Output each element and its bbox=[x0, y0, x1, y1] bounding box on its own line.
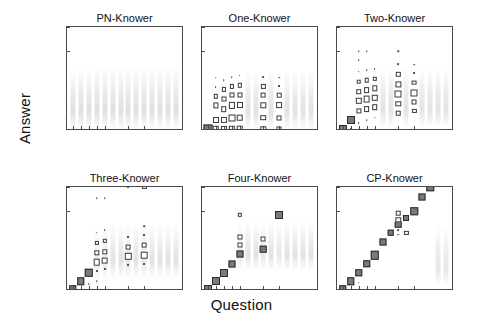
density-column bbox=[253, 70, 258, 129]
data-point-marker bbox=[413, 72, 415, 74]
x-tick-mark bbox=[359, 126, 360, 129]
x-tick-mark bbox=[144, 126, 145, 129]
panel-two-knower: Two-Knower1102012345810 bbox=[336, 26, 453, 130]
plot-area bbox=[202, 27, 317, 129]
density-column bbox=[142, 66, 147, 129]
data-point-marker bbox=[279, 77, 281, 79]
panel-pn-knower: PN-Knower1102012345810 bbox=[66, 26, 183, 130]
density-column bbox=[134, 66, 139, 129]
density-column bbox=[150, 66, 155, 129]
data-point-marker bbox=[387, 230, 394, 237]
y-tick-mark bbox=[67, 187, 70, 188]
y-tick-mark bbox=[202, 211, 205, 212]
data-point-marker bbox=[363, 260, 371, 268]
x-tick-mark bbox=[367, 126, 368, 129]
plot-frame: 1102012345810 bbox=[66, 26, 183, 130]
panel-title: Four-Knower bbox=[201, 172, 318, 184]
data-point-marker bbox=[427, 186, 435, 191]
y-tick-mark bbox=[337, 51, 340, 52]
data-point-marker bbox=[221, 87, 225, 91]
density-column bbox=[158, 66, 163, 129]
density-column bbox=[102, 66, 107, 129]
data-point-marker bbox=[236, 250, 243, 257]
x-tick-mark bbox=[263, 286, 264, 289]
data-point-marker bbox=[364, 106, 370, 112]
data-point-marker bbox=[358, 60, 360, 62]
x-tick-mark bbox=[224, 126, 225, 129]
data-point-marker bbox=[144, 226, 146, 228]
data-point-marker bbox=[228, 260, 235, 267]
data-point-marker bbox=[215, 77, 217, 79]
plot-frame: 1102012345810 bbox=[336, 186, 453, 290]
density-column bbox=[293, 221, 298, 269]
density-column bbox=[118, 223, 123, 277]
data-point-marker bbox=[412, 109, 416, 113]
data-point-marker bbox=[277, 115, 282, 120]
data-point-marker bbox=[404, 231, 408, 235]
data-point-marker bbox=[220, 117, 226, 123]
density-column bbox=[245, 70, 250, 129]
panel-title: CP-Knower bbox=[336, 172, 453, 184]
density-column bbox=[174, 66, 179, 129]
density-column bbox=[388, 67, 393, 127]
data-point-marker bbox=[96, 197, 98, 199]
y-tick-mark bbox=[337, 27, 340, 28]
y-axis-label: Answer bbox=[16, 69, 33, 169]
data-point-marker bbox=[88, 283, 90, 285]
data-point-marker bbox=[396, 101, 401, 106]
data-point-marker bbox=[396, 82, 401, 87]
x-tick-mark bbox=[89, 126, 90, 129]
y-tick-mark bbox=[67, 27, 70, 28]
data-point-marker bbox=[94, 241, 98, 245]
plot-frame: 1102012345810 bbox=[201, 26, 318, 130]
data-point-marker bbox=[372, 86, 377, 91]
plot-area bbox=[337, 187, 452, 289]
data-point-marker bbox=[364, 78, 369, 83]
data-point-marker bbox=[237, 102, 243, 108]
data-point-marker bbox=[213, 94, 217, 98]
x-tick-mark bbox=[398, 286, 399, 289]
x-tick-mark bbox=[375, 126, 376, 129]
data-point-marker bbox=[261, 93, 266, 98]
x-tick-mark bbox=[240, 286, 241, 289]
data-point-marker bbox=[396, 111, 401, 116]
x-tick-mark bbox=[232, 286, 233, 289]
data-point-marker bbox=[101, 257, 108, 264]
plot-frame: 1102012345810 bbox=[66, 186, 183, 290]
data-point-marker bbox=[143, 234, 145, 236]
density-column bbox=[309, 221, 314, 269]
data-point-marker bbox=[96, 281, 98, 283]
x-tick-mark bbox=[73, 126, 74, 129]
x-tick-mark bbox=[144, 286, 145, 289]
data-point-marker bbox=[412, 100, 417, 105]
figure-panel-grid: Answer Question PN-Knower1102012345810On… bbox=[0, 0, 483, 322]
density-column bbox=[380, 67, 385, 127]
density-column bbox=[78, 68, 83, 129]
data-point-marker bbox=[358, 122, 360, 124]
plot-area bbox=[67, 27, 182, 129]
y-tick-mark bbox=[67, 289, 70, 290]
data-point-marker bbox=[237, 83, 241, 87]
x-tick-mark bbox=[279, 286, 280, 289]
data-point-marker bbox=[398, 51, 400, 53]
data-point-marker bbox=[277, 102, 283, 108]
density-column bbox=[245, 221, 250, 269]
density-column bbox=[269, 221, 274, 269]
data-point-marker bbox=[403, 215, 409, 221]
data-point-marker bbox=[398, 229, 400, 231]
data-point-marker bbox=[96, 232, 98, 234]
data-point-marker bbox=[366, 69, 368, 71]
x-axis-label: Question bbox=[0, 296, 483, 313]
density-column bbox=[142, 223, 147, 277]
data-point-marker bbox=[104, 268, 106, 270]
data-point-marker bbox=[94, 250, 99, 255]
density-column bbox=[404, 67, 409, 127]
data-point-marker bbox=[261, 84, 265, 88]
data-point-marker bbox=[223, 79, 225, 81]
data-point-marker bbox=[370, 251, 379, 260]
x-tick-mark bbox=[97, 286, 98, 289]
y-tick-mark bbox=[67, 211, 70, 212]
density-column bbox=[293, 70, 298, 129]
x-tick-mark bbox=[216, 286, 217, 289]
data-point-marker bbox=[229, 84, 233, 88]
